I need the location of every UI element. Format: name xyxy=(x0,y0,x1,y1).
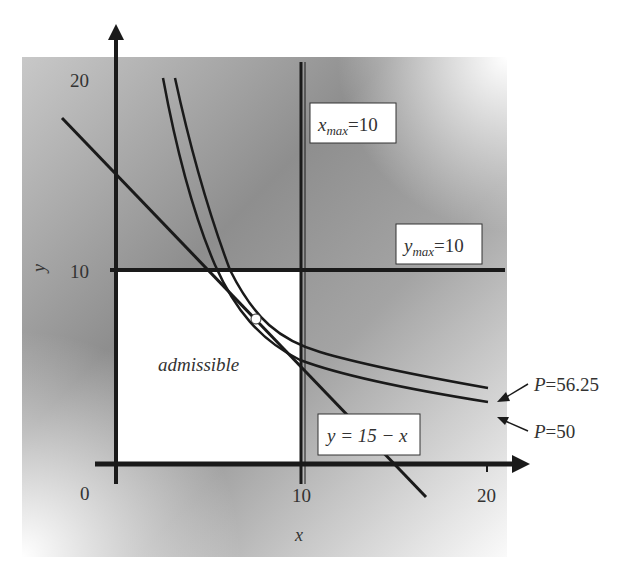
tick-x20: 20 xyxy=(477,485,496,506)
svg-text:P=50: P=50 xyxy=(533,421,575,442)
tick-y20: 20 xyxy=(70,70,89,91)
y-axis-title: y xyxy=(29,264,49,274)
xmax-label: xmax=10 xyxy=(310,103,396,143)
svg-text:xmax=10: xmax=10 xyxy=(317,114,378,138)
p50-label: P=50 xyxy=(497,417,575,442)
tick-x10: 10 xyxy=(292,485,311,506)
budget-line-label: y = 15 − x xyxy=(318,414,420,455)
optimum-point xyxy=(251,314,261,324)
svg-text:y = 15 − x: y = 15 − x xyxy=(325,425,408,446)
svg-text:P=56.25: P=56.25 xyxy=(533,374,599,395)
admissible-label: admissible xyxy=(158,354,239,375)
x-axis-title: x xyxy=(294,525,303,545)
tick-y10: 10 xyxy=(70,261,89,282)
ymax-label: ymax=10 xyxy=(396,224,482,264)
chart: 20 10 0 10 20 y x xmax=10 ymax=10 admiss… xyxy=(0,0,625,574)
tick-x0: 0 xyxy=(80,483,90,504)
p56-label: P=56.25 xyxy=(497,374,599,402)
